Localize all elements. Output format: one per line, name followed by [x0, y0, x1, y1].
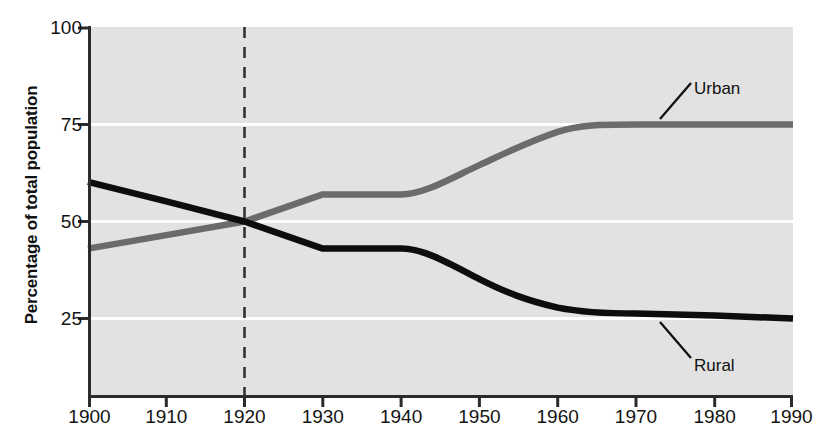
- y-tick-label-100: 100: [30, 18, 82, 37]
- x-tick-label-1970: 1970: [596, 407, 676, 426]
- x-tick-label-1930: 1930: [283, 407, 363, 426]
- y-tick-label-75: 75: [30, 115, 82, 134]
- y-tick-label-25: 25: [30, 309, 82, 328]
- series-label-urban: Urban: [694, 80, 740, 97]
- chart-figure: Percentage of total population 100 75 50…: [0, 0, 829, 447]
- x-tick-label-1940: 1940: [361, 407, 441, 426]
- x-axis-tick-labels: 1900 1910 1920 1930 1940 1950 1960 1970 …: [0, 407, 829, 437]
- y-axis-tick-labels: 100 75 50 25: [20, 0, 82, 447]
- line-chart-plot: [0, 0, 829, 447]
- x-tick-label-1920: 1920: [205, 407, 285, 426]
- x-tick-label-1960: 1960: [518, 407, 598, 426]
- series-label-rural: Rural: [694, 357, 735, 374]
- x-tick-label-1990: 1990: [752, 407, 829, 426]
- x-tick-label-1980: 1980: [675, 407, 755, 426]
- x-tick-label-1910: 1910: [126, 407, 206, 426]
- x-tick-label-1950: 1950: [439, 407, 519, 426]
- x-tick-label-1900: 1900: [50, 407, 130, 426]
- y-tick-label-50: 50: [30, 212, 82, 231]
